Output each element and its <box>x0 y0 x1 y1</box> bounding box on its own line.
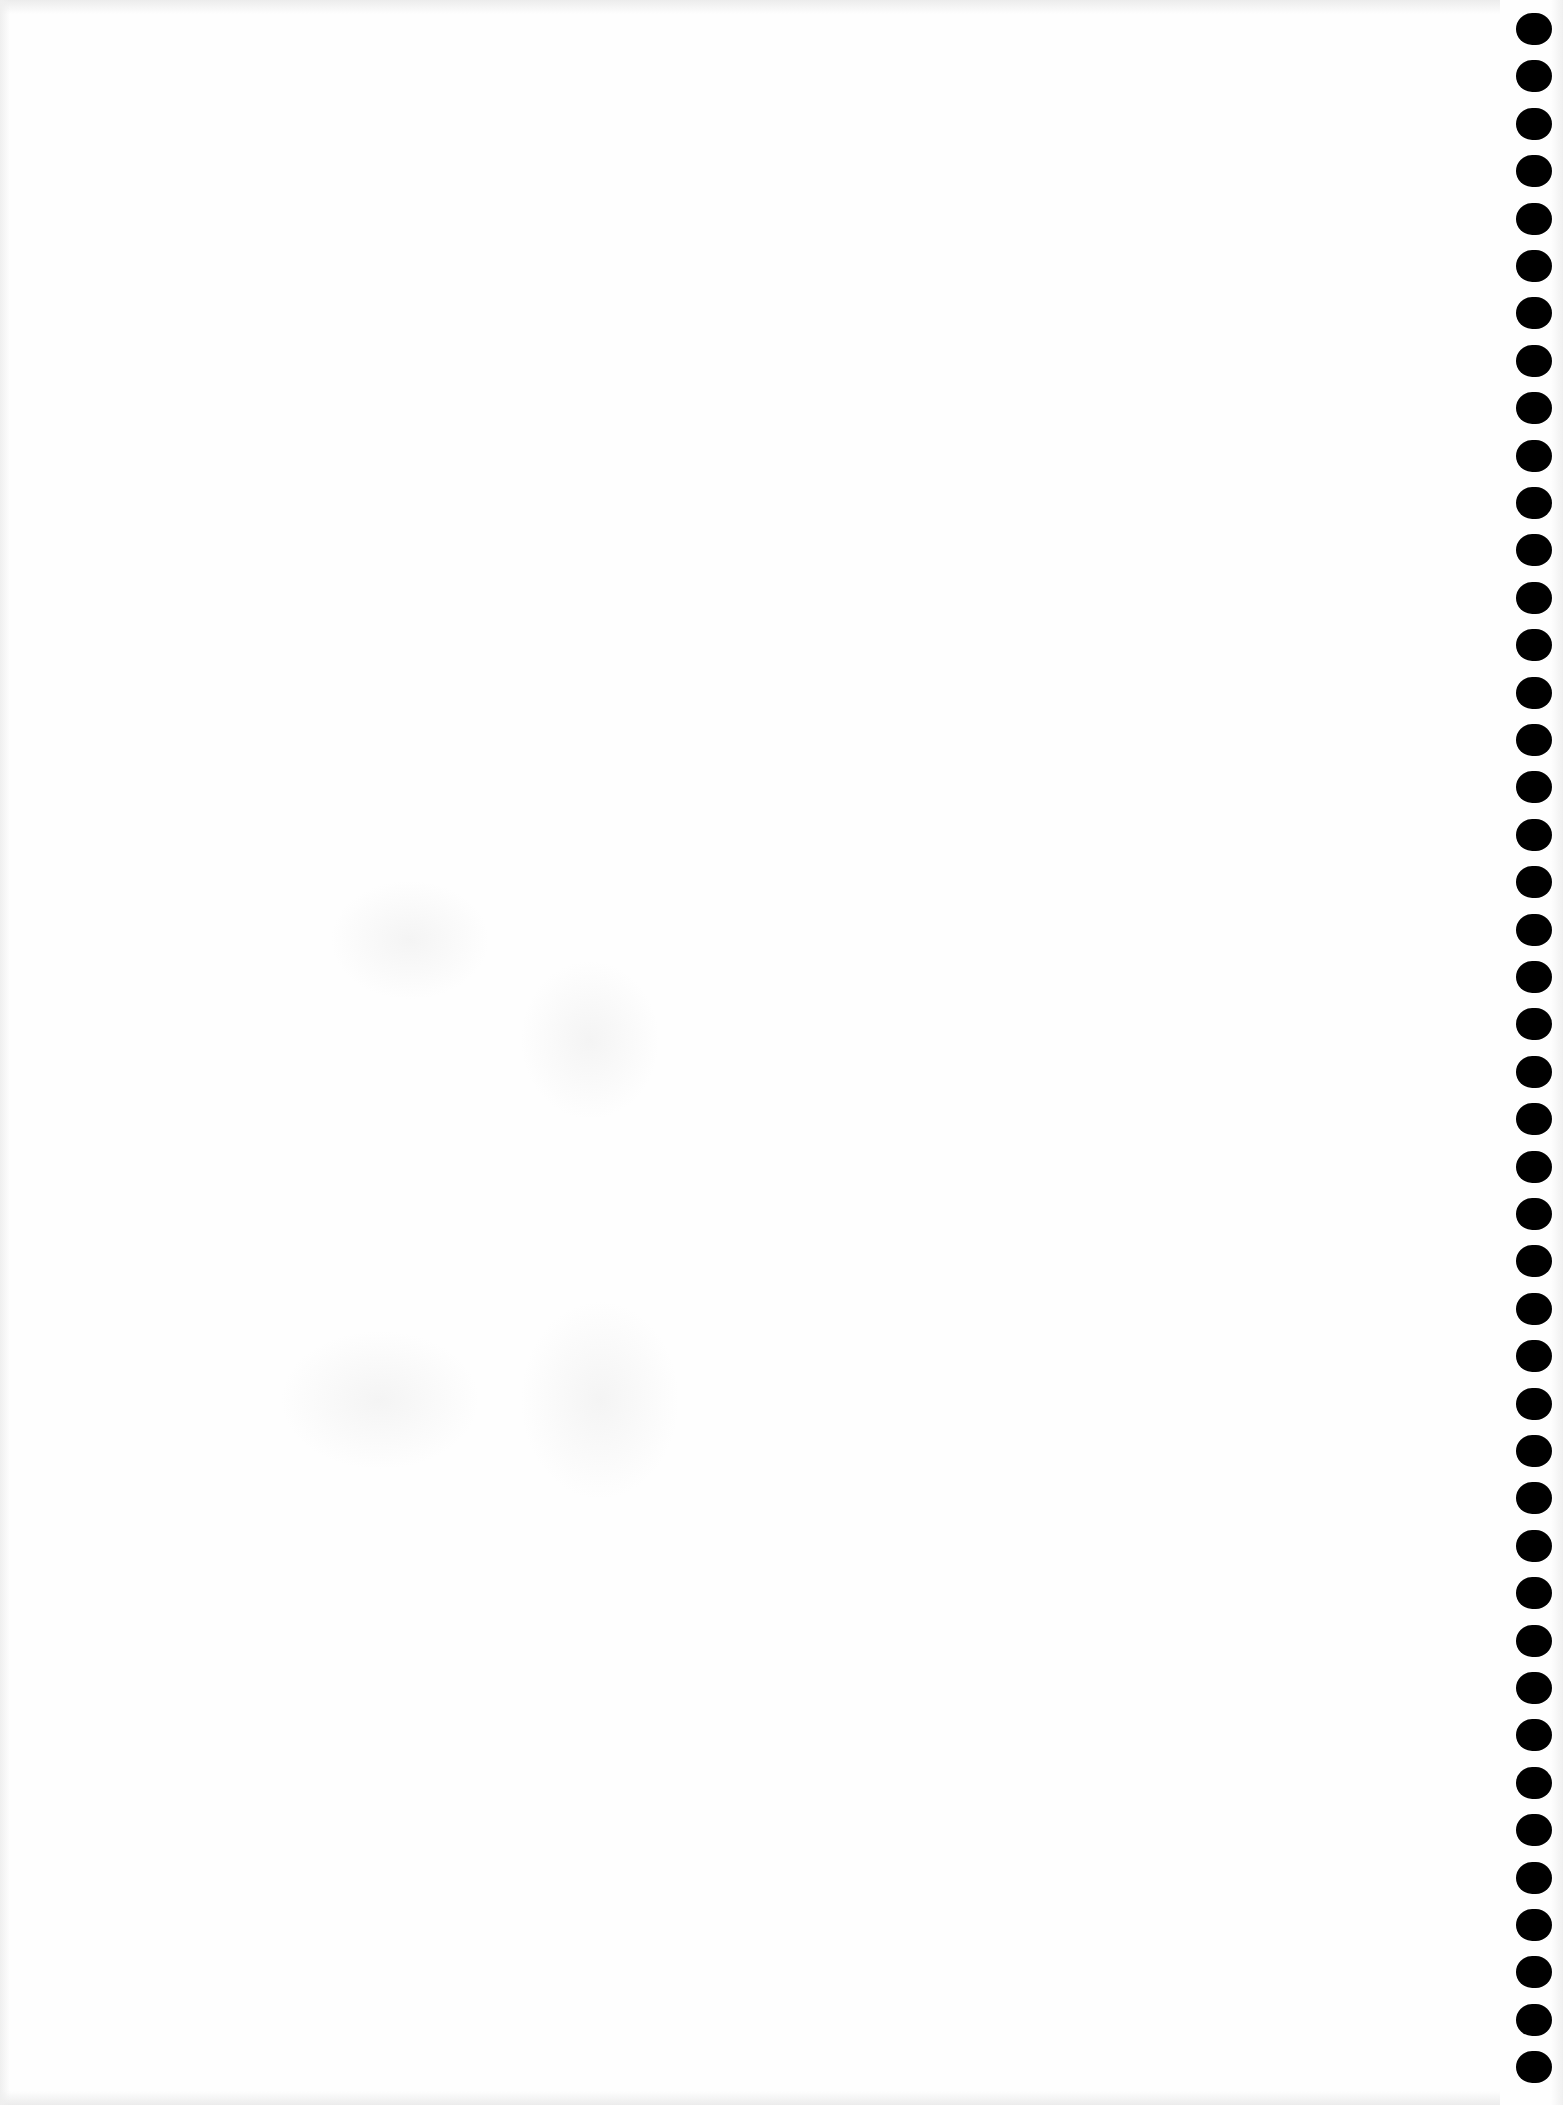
binding-hole <box>1516 1340 1552 1372</box>
binding-hole <box>1516 961 1552 993</box>
binding-hole <box>1516 250 1552 282</box>
scan-shadow-top <box>0 0 1500 14</box>
binding-hole <box>1516 629 1552 661</box>
binding-hole <box>1516 1056 1552 1088</box>
binding-hole <box>1516 60 1552 92</box>
binding-hole <box>1516 1719 1552 1751</box>
binding-hole <box>1516 771 1552 803</box>
binding-hole <box>1516 534 1552 566</box>
binding-hole <box>1516 1814 1552 1846</box>
binding-hole <box>1516 155 1552 187</box>
binding-hole <box>1516 1103 1552 1135</box>
binding-hole <box>1516 440 1552 472</box>
binding-hole <box>1516 1672 1552 1704</box>
binding-hole <box>1516 1956 1552 1988</box>
binding-hole <box>1516 1293 1552 1325</box>
binding-hole <box>1516 297 1552 329</box>
binding-hole <box>1516 1198 1552 1230</box>
binding-hole <box>1516 2004 1552 2036</box>
binding-hole <box>1516 1151 1552 1183</box>
bleed-through-mark <box>520 960 660 1120</box>
binding-hole <box>1516 582 1552 614</box>
binding-hole <box>1516 1435 1552 1467</box>
binding-hole <box>1516 866 1552 898</box>
bleed-through-mark <box>520 1300 680 1500</box>
binding-hole <box>1516 724 1552 756</box>
binding-hole <box>1516 914 1552 946</box>
binding-hole <box>1516 487 1552 519</box>
binding-hole <box>1516 1909 1552 1941</box>
binding-hole <box>1516 1625 1552 1657</box>
scan-shadow-left <box>0 0 10 2105</box>
notebook-page <box>0 0 1563 2105</box>
binding-hole <box>1516 392 1552 424</box>
binding-hole <box>1516 2051 1552 2083</box>
binding-hole <box>1516 819 1552 851</box>
binding-hole <box>1516 1008 1552 1040</box>
spiral-binding-holes <box>1516 0 1553 2105</box>
binding-hole <box>1516 1577 1552 1609</box>
binding-hole <box>1516 345 1552 377</box>
binding-hole <box>1516 1767 1552 1799</box>
binding-hole <box>1516 1482 1552 1514</box>
binding-hole <box>1516 677 1552 709</box>
binding-hole <box>1516 1862 1552 1894</box>
binding-hole <box>1516 13 1552 45</box>
bleed-through-mark <box>280 1330 480 1470</box>
binding-hole <box>1516 1388 1552 1420</box>
binding-hole <box>1516 1245 1552 1277</box>
bleed-through-mark <box>330 880 490 1000</box>
scan-shadow-bottom <box>0 2091 1500 2105</box>
binding-hole <box>1516 108 1552 140</box>
binding-hole <box>1516 203 1552 235</box>
binding-hole <box>1516 1530 1552 1562</box>
